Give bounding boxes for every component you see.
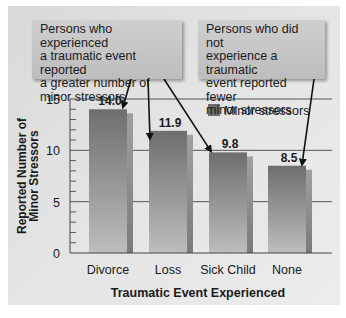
annotation-no-trauma-line-1: Persons who did not	[206, 23, 318, 50]
y-tick-label: 5	[53, 196, 60, 210]
bar-divorce	[89, 109, 127, 253]
annotation-traumatic-line-2: a traumatic event reported	[40, 50, 175, 77]
bar-shadow	[187, 135, 193, 253]
x-tick-label: None	[272, 263, 302, 277]
bar-loss	[149, 131, 187, 253]
bar-shadow	[306, 170, 312, 253]
bar-shadow	[127, 113, 133, 253]
bar-shadow	[247, 156, 253, 253]
data-label: 8.5	[281, 151, 298, 165]
data-label: 11.9	[159, 116, 182, 130]
annotation-traumatic-line-3: a greater number of	[40, 77, 175, 91]
y-axis-title-line-2: Minor Stressors	[27, 130, 41, 222]
data-label: 9.8	[222, 137, 239, 151]
annotation-traumatic: Persons who experienced a traumatic even…	[32, 20, 182, 79]
annotation-no-trauma-line-3: event reported fewer	[206, 77, 318, 104]
annotation-traumatic-line-4: minor stressors	[40, 91, 175, 105]
y-tick-label: 10	[46, 144, 60, 158]
x-axis-title: Traumatic Event Experienced	[111, 286, 285, 300]
annotation-traumatic-line-1: Persons who experienced	[40, 23, 175, 50]
bar-sick-child	[209, 152, 247, 253]
x-tick-label: Sick Child	[200, 263, 256, 277]
annotation-no-trauma: Persons who did not experience a traumat…	[198, 20, 325, 79]
bar-none	[268, 166, 306, 253]
x-tick-label: Loss	[155, 263, 181, 277]
annotation-no-trauma-line-2: experience a traumatic	[206, 50, 318, 77]
annotation-no-trauma-line-4: minor stressors	[206, 104, 318, 118]
x-tick-label: Divorce	[87, 263, 129, 277]
y-tick-label: 0	[53, 247, 60, 261]
